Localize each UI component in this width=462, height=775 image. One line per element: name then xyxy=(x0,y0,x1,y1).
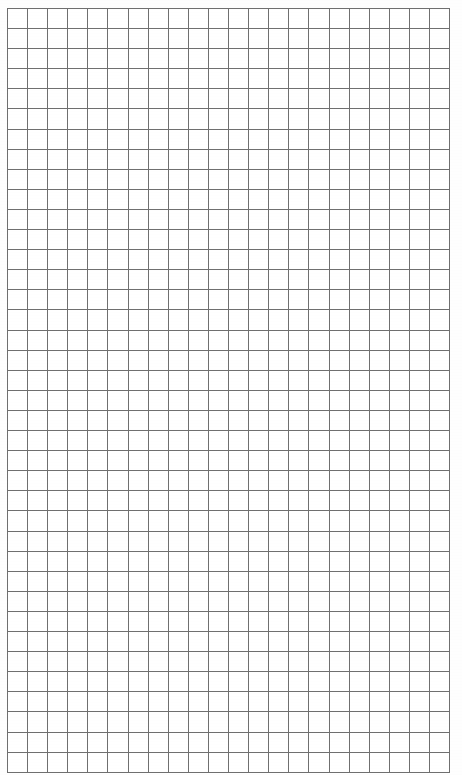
graph-paper-page xyxy=(0,0,462,775)
grid-bottom-border-line xyxy=(7,772,450,773)
grid-right-border-line xyxy=(449,8,450,773)
graph-paper-grid xyxy=(7,8,449,772)
